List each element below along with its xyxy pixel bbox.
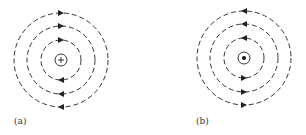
arrow-left-icon (241, 21, 247, 27)
arrowheads-top-left (241, 8, 247, 41)
current-into-page-icon (55, 54, 67, 66)
arrowheads-bottom-left (58, 77, 64, 110)
arrow-left-icon (241, 35, 247, 41)
panel-label-a: (a) (14, 116, 26, 126)
arrow-right-icon (241, 102, 247, 108)
arrow-left-icon (58, 104, 64, 110)
arrow-right-icon (58, 10, 64, 16)
arrow-right-icon (58, 23, 64, 29)
field-lines-diagram-a (0, 0, 153, 135)
panel-a: (a) (0, 0, 153, 135)
arrow-left-icon (58, 91, 64, 97)
arrow-right-icon (241, 75, 247, 81)
panel-label-b: (b) (196, 116, 209, 126)
field-lines-diagram-b (153, 0, 306, 135)
arrow-right-icon (58, 37, 64, 43)
arrow-right-icon (241, 89, 247, 95)
arrow-left-icon (58, 77, 64, 83)
panel-b: (b) (153, 0, 306, 135)
current-out-of-page-icon (238, 52, 250, 64)
arrow-left-icon (241, 8, 247, 14)
